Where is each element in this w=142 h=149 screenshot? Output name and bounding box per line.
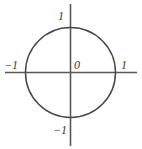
y-axis-label-negative-one: −1	[53, 124, 67, 136]
origin-label: 0	[74, 59, 80, 71]
x-axis-label-positive-one: 1	[121, 59, 127, 71]
coordinate-plane-svg	[0, 0, 142, 149]
y-axis-label-positive-one: 1	[58, 10, 64, 22]
unit-circle-figure: 1 −1 −1 1 0	[0, 0, 142, 149]
x-axis-label-negative-one: −1	[4, 59, 18, 71]
